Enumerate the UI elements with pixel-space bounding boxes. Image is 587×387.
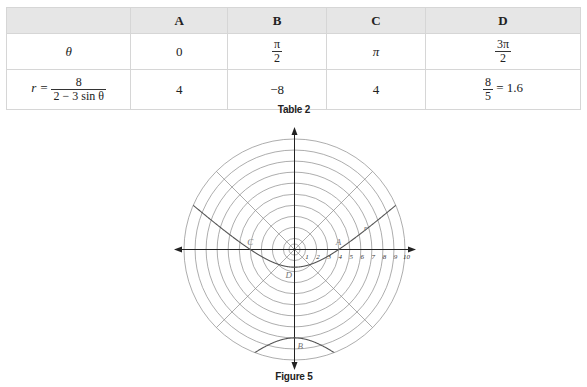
axis-tick-label: 7 [372,253,376,261]
axis-tick-label: 2 [316,253,320,261]
axis-tick-label: 10 [403,253,411,261]
axis-tick-label: 8 [383,253,387,261]
curve-label-r: r [364,223,368,233]
axis-tick-label: 9 [394,253,398,261]
arrow-left-icon [174,247,182,253]
arrow-down-icon [292,362,298,370]
arrow-up-icon [292,127,298,135]
axis-tick-label: 5 [350,253,354,261]
point-label-b: B [298,341,304,351]
axis-tick-label: 1 [305,253,309,261]
point-label-d: D [285,270,293,280]
polar-graph: 12345678910ACDBr [0,0,587,387]
figure-caption: Figure 5 [275,371,312,382]
axis-tick-label: 4 [338,253,342,261]
point-label-c: C [247,237,254,247]
point-label-a: A [335,237,342,247]
axis-tick-label: 6 [361,253,365,261]
